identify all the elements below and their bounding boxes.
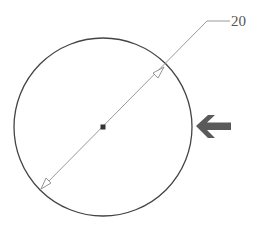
center-mark	[101, 125, 106, 130]
left-arrow-icon	[196, 115, 231, 138]
dimension-arrowhead-icon	[153, 67, 164, 78]
dimension-value: 20	[231, 13, 246, 29]
diagram-canvas	[0, 0, 264, 230]
dimension-arrowhead-icon	[41, 178, 51, 189]
